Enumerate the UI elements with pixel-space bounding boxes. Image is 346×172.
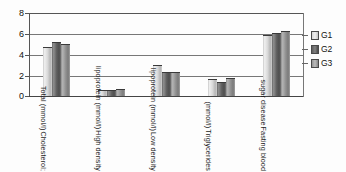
y-tick-label-8: 8 [0,9,24,18]
bar-g2[interactable] [52,42,61,96]
x-label-line-1: High density [94,130,102,171]
legend-tick-stub [302,63,308,64]
legend-tick-stub [302,35,308,36]
y-tick-label-4: 4 [0,51,24,60]
bar-g3[interactable] [171,72,180,96]
legend-label-g1: G1 [321,31,332,40]
legend-swatch-g2 [311,45,319,54]
legend-label-g3: G3 [321,59,332,68]
legend-swatch-g1 [311,31,319,40]
x-label-line-2: lipoprotein (mmol/l) [149,68,157,131]
x-label-high-density-lipoprotein: High density lipoprotein (mmol/l) [76,99,102,171]
x-label-cholesterol-total: Cholesterol; Total (mmol/l) [21,99,47,171]
bar-g3[interactable] [116,89,125,96]
bar-g3[interactable] [61,44,70,96]
bar-g3[interactable] [226,78,235,96]
x-label-line-2: sugar disease [259,79,267,125]
legend-label-g2: G2 [321,45,332,54]
x-label-line-1: Triglycerides [204,129,212,171]
legend-item-g3[interactable]: G3 [311,59,345,68]
x-label-triglycerides: Triglycerides (mmol/l) [186,99,212,171]
bar-g2[interactable] [107,90,116,96]
y-tick-label-2: 2 [0,72,24,81]
bar-g1[interactable] [208,79,217,96]
x-label-line-2: Total (mmol/l) [39,86,47,131]
x-label-low-density-lipoprotein: Low density lipoprotein (mmol/l) [131,99,157,171]
bar-g3[interactable] [281,31,290,96]
x-label-line-1: Cholesterol; [39,131,47,171]
chart-figure: 8 6 4 2 0 [0,0,346,172]
plot-right-border [303,13,304,97]
bar-group-cholesterol-total [43,13,70,96]
x-label-line-2: (mmol/l) [204,101,212,128]
chart-legend: G1 G2 G3 [311,31,345,68]
legend-item-g2[interactable]: G2 [311,45,345,54]
bar-g2[interactable] [272,33,281,96]
x-label-line-2: lipoprotein (mmol/l) [94,66,102,129]
legend-item-g1[interactable]: G1 [311,31,345,40]
legend-tick-stub [302,49,308,50]
x-label-fasting-blood-sugar: Fasting blood sugar disease [241,99,267,171]
x-label-line-1: Low density [149,132,157,171]
legend-swatch-g3 [311,59,319,68]
x-label-line-1: Fasting blood [259,127,267,171]
bar-g2[interactable] [162,72,171,96]
x-axis-labels: Cholesterol; Total (mmol/l) High density… [29,99,303,172]
y-tick-label-6: 6 [0,30,24,39]
bar-g2[interactable] [217,82,226,96]
bar-group-triglycerides [208,13,235,96]
